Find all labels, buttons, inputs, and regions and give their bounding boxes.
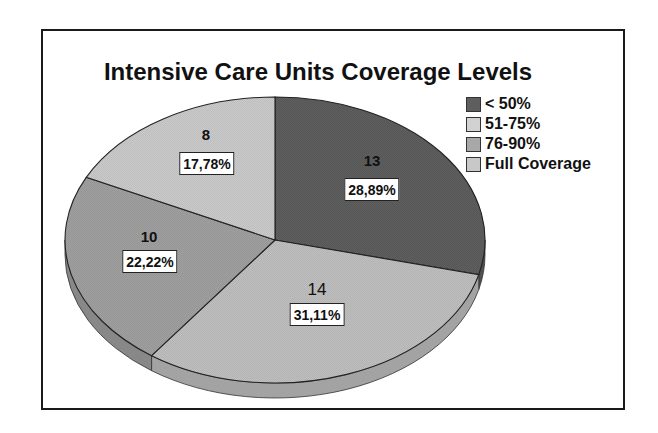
slice-percent-76-90: 22,22%	[122, 250, 177, 273]
legend-label: 76-90%	[485, 135, 540, 153]
legend-label: < 50%	[485, 95, 531, 113]
slice-percent-lt50: 28,89%	[344, 178, 399, 201]
legend-swatch-icon	[466, 157, 481, 172]
slice-value-51-75: 14	[308, 280, 327, 300]
legend-item-full-coverage[interactable]: Full Coverage	[466, 154, 591, 174]
legend-swatch-icon	[466, 117, 481, 132]
slice-value-lt50: 13	[364, 152, 381, 169]
pie-chart	[0, 0, 658, 433]
legend-item-76-90[interactable]: 76-90%	[466, 134, 591, 154]
legend-label: Full Coverage	[485, 155, 591, 173]
slice-percent-full-coverage: 17,78%	[179, 152, 234, 175]
legend-swatch-icon	[466, 137, 481, 152]
legend-item-lt50[interactable]: < 50%	[466, 94, 591, 114]
legend-item-51-75[interactable]: 51-75%	[466, 114, 591, 134]
slice-value-76-90: 10	[141, 228, 158, 245]
slice-value-full-coverage: 8	[202, 126, 210, 143]
legend-label: 51-75%	[485, 115, 540, 133]
slice-percent-51-75: 31,11%	[290, 303, 345, 326]
legend-swatch-icon	[466, 97, 481, 112]
legend: < 50% 51-75% 76-90% Full Coverage	[466, 94, 591, 174]
